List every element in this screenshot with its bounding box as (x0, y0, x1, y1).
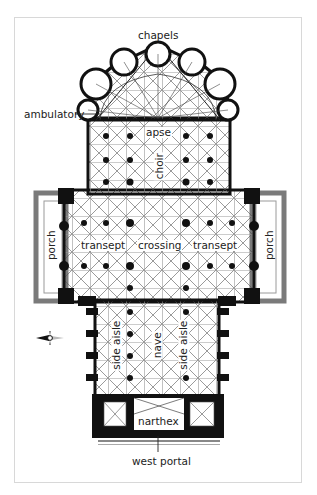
label-transept-left: transept (80, 240, 126, 251)
label-narthex: narthex (137, 416, 180, 427)
apse-chevet (78, 42, 238, 120)
label-porch-left: porch (46, 229, 57, 261)
compass-rose-icon (36, 331, 64, 345)
label-side-aisle-right: side aisle (178, 320, 189, 371)
label-nave: nave (152, 331, 163, 359)
label-west-portal: west portal (132, 456, 191, 467)
label-porch-right: porch (264, 229, 275, 261)
label-side-aisle-left: side aisle (111, 320, 122, 371)
label-transept-right: transept (192, 240, 238, 251)
label-ambulatory: ambulatory (24, 109, 84, 120)
label-chapels: chapels (138, 30, 178, 41)
label-apse: apse (145, 127, 172, 138)
label-crossing: crossing (137, 240, 182, 251)
label-choir: choir (154, 152, 165, 180)
